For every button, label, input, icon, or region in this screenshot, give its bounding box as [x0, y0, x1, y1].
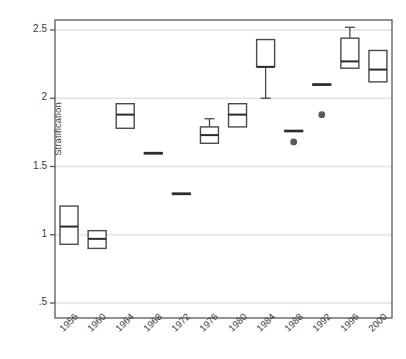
y-tick-label: 1.5 [19, 160, 47, 171]
boxes-group [60, 27, 387, 248]
outlier-point-1992 [318, 111, 325, 118]
box-group-2000 [369, 50, 387, 81]
box-group-1960 [88, 231, 106, 249]
gridlines-group [55, 30, 392, 303]
box-group-1968 [144, 153, 162, 154]
box-1984 [257, 40, 275, 67]
box-group-1996 [341, 27, 359, 68]
y-tick-label: .5 [19, 296, 47, 307]
boxplot-chart: Stratification .511.522.5 19561960196419… [0, 0, 406, 359]
box-group-1980 [229, 104, 247, 127]
box-group-1984 [257, 40, 275, 99]
box-1996 [341, 38, 359, 68]
outlier-point-1988 [290, 139, 297, 146]
box-group-1988 [285, 130, 303, 145]
y-tick-label: 1 [19, 228, 47, 239]
box-group-1976 [200, 119, 218, 144]
box-group-1956 [60, 206, 78, 244]
axis-ticks-group [50, 30, 55, 303]
plot-canvas [0, 0, 406, 359]
box-1956 [60, 206, 78, 244]
box-2000 [369, 50, 387, 81]
box-group-1992 [313, 84, 331, 118]
y-tick-label: 2 [19, 91, 47, 102]
y-tick-label: 2.5 [19, 23, 47, 34]
box-group-1972 [172, 193, 190, 194]
box-group-1964 [116, 104, 134, 129]
box-1964 [116, 104, 134, 129]
